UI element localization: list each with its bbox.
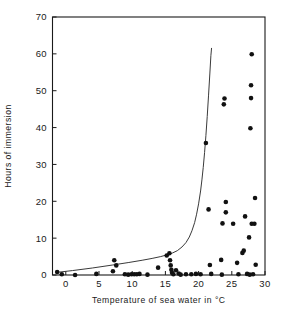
data-point <box>178 272 183 277</box>
y-tick-label: 10 <box>36 233 47 244</box>
data-point <box>55 270 60 275</box>
data-point <box>253 262 258 267</box>
data-point <box>251 272 256 277</box>
data-point <box>236 272 241 277</box>
scatter-plot-svg: 051015202530 010203040506070 Temperature… <box>0 0 287 327</box>
data-point <box>60 272 65 277</box>
y-axis-ticks <box>53 17 57 275</box>
data-point <box>189 272 194 277</box>
x-tick-label: 10 <box>127 278 138 289</box>
data-point <box>198 272 203 277</box>
data-point <box>209 272 214 277</box>
data-point <box>111 269 116 274</box>
x-tick-label: 25 <box>226 278 237 289</box>
data-point <box>235 261 240 266</box>
data-point <box>249 52 254 57</box>
data-point <box>248 126 253 131</box>
plot-frame <box>53 17 266 275</box>
x-tick-label: 15 <box>160 278 171 289</box>
data-point <box>220 221 225 226</box>
data-point <box>184 272 189 277</box>
data-point <box>156 265 161 270</box>
data-point <box>249 96 254 101</box>
x-tick-label: 20 <box>193 278 204 289</box>
curve-path <box>56 48 211 272</box>
data-point <box>73 273 78 278</box>
fitted-curve <box>56 48 211 272</box>
y-axis-title: Hours of immersion <box>3 104 13 188</box>
data-point <box>171 272 176 277</box>
data-point <box>206 207 211 212</box>
data-point <box>219 258 224 263</box>
x-tick-label: 0 <box>63 278 69 289</box>
data-point <box>167 251 172 256</box>
y-tick-label: 30 <box>36 159 47 170</box>
data-point <box>224 200 229 205</box>
x-tick-label: 30 <box>259 278 270 289</box>
data-point <box>241 248 246 253</box>
data-point <box>204 141 209 146</box>
y-tick-label: 20 <box>36 196 47 207</box>
y-tick-label: 60 <box>36 48 47 59</box>
y-tick-label: 40 <box>36 122 47 133</box>
data-point <box>194 272 199 277</box>
data-point <box>137 272 142 277</box>
chart-figure: 051015202530 010203040506070 Temperature… <box>0 0 287 327</box>
data-points <box>55 52 258 277</box>
plot-border <box>53 17 266 275</box>
data-point <box>114 263 119 268</box>
data-point <box>112 258 117 263</box>
data-point <box>222 96 227 101</box>
data-point <box>224 210 229 215</box>
data-point <box>253 196 258 201</box>
data-point <box>249 83 254 88</box>
data-point <box>168 263 173 268</box>
x-tick-label: 5 <box>96 278 102 289</box>
x-axis-title: Temperature of sea water in °C <box>92 295 226 305</box>
x-axis-tick-labels: 051015202530 <box>63 278 271 289</box>
data-point <box>208 263 213 268</box>
data-point <box>145 272 150 277</box>
data-point <box>231 221 236 226</box>
y-tick-label: 0 <box>41 269 47 280</box>
data-point <box>222 102 227 107</box>
data-point <box>220 272 225 277</box>
data-point <box>94 272 99 277</box>
y-axis-tick-labels: 010203040506070 <box>36 11 47 280</box>
data-point <box>168 258 173 263</box>
y-tick-label: 70 <box>36 11 47 22</box>
y-tick-label: 50 <box>36 85 47 96</box>
data-point <box>247 235 252 240</box>
data-point <box>243 214 248 219</box>
data-point <box>252 221 257 226</box>
